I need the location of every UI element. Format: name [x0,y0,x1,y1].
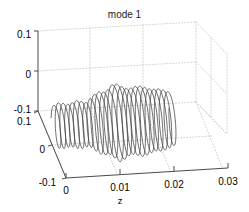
xtick-label-3: 0.03 [211,171,245,189]
dtick-label-mid: 0 [17,139,45,157]
dtick-label-bot-text: -0.1 [39,177,56,188]
grid-floor-depth-1 [52,136,212,145]
xtick-label-0: 0 [57,180,75,198]
xtick-label-0-text: 0 [63,185,69,196]
dtick-label-bot: -0.1 [26,172,56,190]
grid-back-h-mid [38,62,196,71]
plot-title-text: mode 1 [108,9,141,20]
dtick-label-top: 0.1 [3,111,31,129]
plot-title: mode 1 [0,4,249,22]
xtick-label-3-text: 0.03 [218,176,237,187]
x-axis-label-text: z [118,195,123,206]
x-axis-line [66,168,228,178]
x-axis-label: z [103,190,137,208]
dtick-0 [48,145,52,146]
grid-back-h-top [38,22,196,31]
ytick-label-mid-text: 0 [25,69,31,80]
dtick-neg0.1 [62,178,66,179]
ytick-label-top: 0.1 [3,24,31,42]
grid-lines [38,22,227,178]
figure-3d-plot: mode 1 0.1 0 -0.1 0.1 0 -0.1 0 0.01 0.02… [0,0,249,212]
dtick-label-top-text: 0.1 [17,116,31,127]
axis-lines [38,31,228,178]
grid-right-mid-edge [196,62,227,94]
xtick-label-2-text: 0.02 [164,179,183,190]
mode-shape-path [51,84,176,162]
dtick-label-mid-text: 0 [39,144,45,155]
xtick-label-2: 0.02 [157,174,191,192]
grid-floor-x-3 [196,102,222,167]
ytick-label-top-text: 0.1 [17,29,31,40]
mode-shape-curve [51,84,176,162]
ytick-label-mid: 0 [3,64,31,82]
grid-floor-right-edge [196,102,227,134]
grid-right-top-edge [196,22,227,54]
